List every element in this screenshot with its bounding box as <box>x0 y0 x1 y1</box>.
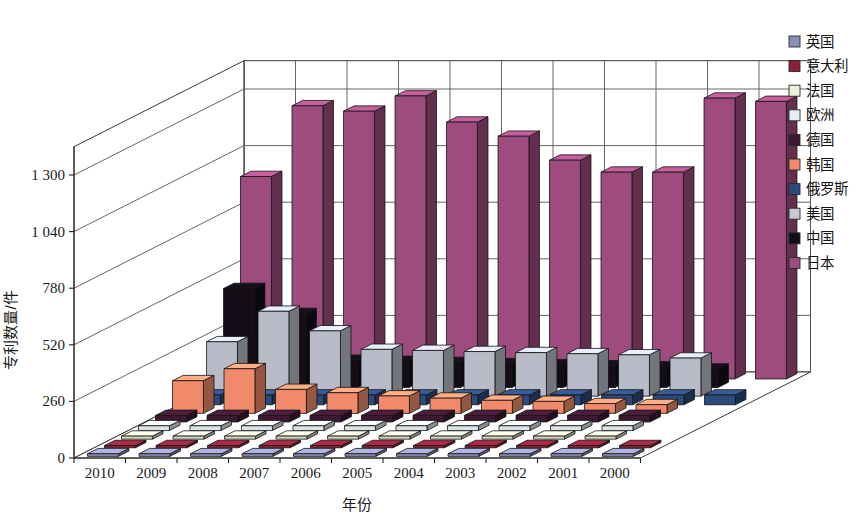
legend-swatch <box>789 208 800 219</box>
bar-日本-2002 <box>653 167 694 379</box>
legend-label: 法国 <box>806 83 834 99</box>
legend-swatch <box>789 184 800 195</box>
legend-item-德国[interactable]: 德国 <box>789 132 834 148</box>
bar-韩国-2007 <box>327 387 368 413</box>
legend-label: 中国 <box>806 230 834 246</box>
legend-item-美国[interactable]: 美国 <box>789 206 834 222</box>
legend-item-英国[interactable]: 英国 <box>789 33 834 50</box>
x-tick-label: 2009 <box>136 465 166 481</box>
legend-label: 欧洲 <box>806 107 834 123</box>
bar-日本-2003 <box>601 167 642 379</box>
x-tick-label: 2004 <box>394 465 425 481</box>
x-axis: 2010200920082007200620052004200320022001… <box>74 458 641 513</box>
x-tick-label: 2008 <box>188 465 218 481</box>
bar-日本-2004 <box>550 155 591 379</box>
legend-label: 韩国 <box>806 157 834 173</box>
y-tick-label: 1 300 <box>31 167 65 183</box>
x-tick-label: 2005 <box>342 465 372 481</box>
patent-count-3d-bar-chart: 02605207801 0401 300专利数量/件 2010200920082… <box>0 0 868 518</box>
y-tick-label: 520 <box>43 337 66 353</box>
x-tick-label: 2001 <box>548 465 578 481</box>
bar-美国-2002 <box>619 349 660 396</box>
legend-label: 英国 <box>806 33 834 50</box>
legend-swatch <box>789 159 800 170</box>
legend-item-韩国[interactable]: 韩国 <box>789 157 834 173</box>
y-tick-label: 780 <box>43 280 66 296</box>
legend-swatch <box>789 61 800 72</box>
legend-label: 美国 <box>806 206 834 222</box>
legend-item-意大利[interactable]: 意大利 <box>789 57 848 74</box>
legend-swatch <box>789 85 800 96</box>
x-axis-title: 年份 <box>342 496 372 513</box>
bar-韩国-2010 <box>173 375 214 413</box>
bar-日本-2007 <box>395 91 436 379</box>
y-axis-title: 专利数量/件 <box>2 290 19 369</box>
legend-label: 俄罗斯 <box>806 181 848 197</box>
bar-美国-2003 <box>567 348 608 396</box>
legend-label: 日本 <box>806 255 834 271</box>
legend-swatch <box>789 257 800 268</box>
bar-美国-2005 <box>464 346 505 396</box>
legend-item-法国[interactable]: 法国 <box>789 83 834 99</box>
y-axis: 02605207801 0401 300专利数量/件 <box>2 147 74 466</box>
x-tick-label: 2010 <box>85 465 115 481</box>
legend-item-俄罗斯[interactable]: 俄罗斯 <box>789 181 848 197</box>
legend-swatch <box>789 233 800 244</box>
legend-label: 意大利 <box>806 57 848 74</box>
chart-root: 02605207801 0401 300专利数量/件 2010200920082… <box>0 0 868 518</box>
legend-swatch <box>789 36 800 47</box>
x-tick-label: 2007 <box>239 465 270 481</box>
bar-美国-2004 <box>516 347 557 396</box>
bar-美国-2006 <box>413 345 454 396</box>
x-tick-label: 2006 <box>291 465 322 481</box>
bar-韩国-2009 <box>224 363 265 413</box>
legend-item-中国[interactable]: 中国 <box>789 230 834 246</box>
y-tick-label: 0 <box>58 450 66 466</box>
bar-日本-2005 <box>498 131 539 379</box>
y-tick-label: 1 040 <box>31 224 65 240</box>
legend-item-欧洲[interactable]: 欧洲 <box>789 107 834 123</box>
bar-日本-2006 <box>447 117 488 379</box>
legend-swatch <box>789 134 800 145</box>
bar-日本-2001 <box>704 93 745 379</box>
x-tick-label: 2003 <box>445 465 475 481</box>
bar-韩国-2008 <box>276 384 317 413</box>
x-tick-label: 2000 <box>600 465 630 481</box>
legend-swatch <box>789 110 800 121</box>
x-tick-label: 2002 <box>497 465 527 481</box>
legend-item-日本[interactable]: 日本 <box>789 255 834 271</box>
bar-俄罗斯-2000 <box>705 390 746 405</box>
legend-label: 德国 <box>806 132 834 148</box>
y-tick-label: 260 <box>43 393 66 409</box>
